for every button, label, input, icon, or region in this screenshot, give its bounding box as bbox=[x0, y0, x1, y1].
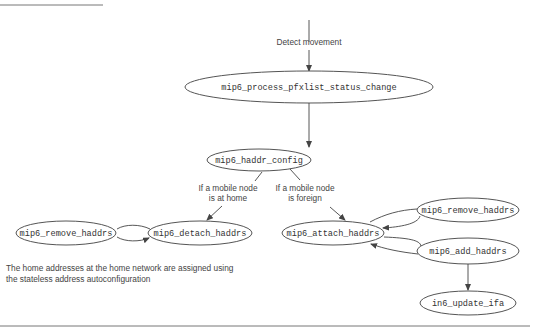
edge-label-foreign-1: If a mobile node bbox=[275, 183, 334, 193]
node-update: in6_update_ifa bbox=[420, 291, 516, 315]
edge-remove-left-detach bbox=[117, 237, 149, 241]
node-update-label: in6_update_ifa bbox=[432, 299, 504, 309]
node-remove-right: mip6_remove_haddrs bbox=[417, 198, 519, 222]
node-remove-left: mip6_remove_haddrs bbox=[16, 221, 116, 245]
node-process-label: mip6_process_pfxlist_status_change bbox=[221, 83, 396, 93]
node-config-label: mip6_haddr_config bbox=[215, 156, 303, 166]
edge-config-detach-top bbox=[255, 172, 262, 181]
edge-add-attach bbox=[371, 244, 418, 254]
node-config: mip6_haddr_config bbox=[207, 149, 311, 171]
node-detach-label: mip6_detach_haddrs bbox=[154, 229, 247, 239]
edge-config-attach bbox=[330, 207, 345, 220]
edge-attach-add bbox=[384, 237, 421, 246]
edge-config-detach bbox=[207, 206, 222, 220]
call-flow-diagram: Detect movement mip6_process_pfxlist_sta… bbox=[0, 0, 540, 332]
note-line-2: the stateless address autoconfiguration bbox=[6, 274, 151, 284]
node-add: mip6_add_haddrs bbox=[417, 238, 519, 264]
edge-label-home-2: is at home bbox=[209, 193, 248, 203]
note-line-1: The home addresses at the home network a… bbox=[6, 263, 234, 273]
edge-remove-right-attach bbox=[383, 216, 420, 228]
edge-label-home-1: If a mobile node bbox=[198, 183, 257, 193]
edge-label-foreign-2: is foreign bbox=[288, 193, 322, 203]
node-process: mip6_process_pfxlist_status_change bbox=[185, 71, 433, 103]
edge-config-attach-top bbox=[290, 169, 300, 180]
node-attach: mip6_attach_haddrs bbox=[282, 221, 384, 245]
edge-attach-remove-right bbox=[370, 209, 417, 222]
node-detach: mip6_detach_haddrs bbox=[148, 221, 252, 245]
node-attach-label: mip6_attach_haddrs bbox=[287, 229, 380, 239]
node-add-label: mip6_add_haddrs bbox=[429, 247, 506, 257]
node-remove-right-label: mip6_remove_haddrs bbox=[422, 206, 515, 216]
node-remove-left-label: mip6_remove_haddrs bbox=[20, 229, 113, 239]
entry-label: Detect movement bbox=[276, 37, 342, 47]
edge-detach-remove-left bbox=[117, 225, 150, 229]
